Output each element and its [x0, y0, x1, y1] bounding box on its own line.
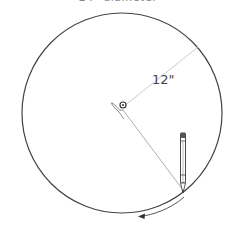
counterclockwise-arrow-icon [138, 197, 184, 219]
circle-diagram: 12" [0, 0, 236, 232]
pin-icon [120, 102, 126, 108]
string-line [123, 110, 183, 190]
radius-label: 12" [152, 72, 175, 87]
pencil-icon [181, 133, 186, 193]
drawn-circle [22, 13, 222, 213]
